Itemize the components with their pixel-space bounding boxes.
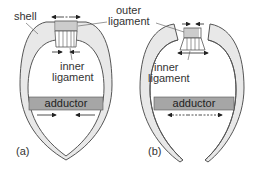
panel-b-label: (b) xyxy=(148,145,161,157)
panel-a-label: (a) xyxy=(16,145,29,157)
inner-ligament-a xyxy=(55,31,77,47)
shell-b-outer-right xyxy=(205,24,244,162)
outer-ligament-b xyxy=(184,28,201,38)
shell-b-outer-left xyxy=(140,24,183,162)
shell-label: shell xyxy=(14,10,37,22)
panel-a: adductor shell inner ligament (a) xyxy=(14,10,112,160)
panel-b: adductor inner ligament (b) xyxy=(140,24,244,162)
adductor-b-label: adductor xyxy=(173,97,216,109)
outer-ligament-label-2: ligament xyxy=(108,15,150,27)
outer-ligament-a xyxy=(55,21,77,31)
bivalve-hinge-diagram: adductor shell inner ligament (a) xyxy=(0,0,255,173)
inner-ligament-b xyxy=(180,38,205,50)
adductor-a-label: adductor xyxy=(45,97,88,109)
inner-ligament-b-label-2: ligament xyxy=(148,72,190,84)
inner-ligament-a-label-2: ligament xyxy=(52,71,94,83)
